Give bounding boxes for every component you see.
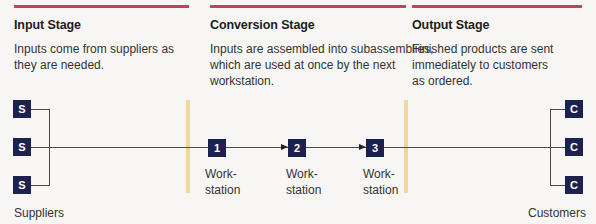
description-line: which are used at once by the next bbox=[210, 57, 433, 73]
description-line: they are needed. bbox=[14, 57, 174, 73]
conversion-stage-header-bar bbox=[210, 5, 406, 8]
output-stage-description: Finished products are sent immediately t… bbox=[412, 41, 553, 89]
description-line: Inputs come from suppliers as bbox=[14, 41, 174, 57]
supplier-node: S bbox=[13, 176, 31, 194]
suppliers-label: Suppliers bbox=[14, 206, 64, 220]
customers-label: Customers bbox=[528, 206, 586, 220]
workstation-label-line: Work- bbox=[286, 166, 321, 182]
customer-connector-bottom bbox=[550, 185, 565, 186]
workstation-label-2: Work- station bbox=[286, 166, 321, 198]
supplier-node: S bbox=[13, 100, 31, 118]
workstation-label-3: Work- station bbox=[363, 166, 398, 198]
description-line: Finished products are sent bbox=[412, 41, 553, 57]
customer-node: C bbox=[565, 176, 583, 194]
customer-node: C bbox=[565, 100, 583, 118]
customer-connector-top bbox=[550, 109, 565, 110]
conversion-stage-description: Inputs are assembled into subassemblies,… bbox=[210, 41, 433, 89]
description-line: as ordered. bbox=[412, 73, 553, 89]
workstation-label-line: station bbox=[286, 182, 321, 198]
description-line: workstation. bbox=[210, 73, 433, 89]
customer-node: C bbox=[565, 138, 583, 156]
description-line: immediately to customers bbox=[412, 57, 553, 73]
supplier-connector-top bbox=[31, 109, 49, 110]
conversion-stage-title: Conversion Stage bbox=[210, 18, 315, 32]
input-stage-header-bar bbox=[14, 5, 189, 8]
workstation-label-line: Work- bbox=[363, 166, 398, 182]
output-stage-header-bar bbox=[412, 5, 582, 8]
workstation-label-1: Work- station bbox=[205, 166, 240, 198]
workstation-label-line: Work- bbox=[205, 166, 240, 182]
workstation-label-line: station bbox=[363, 182, 398, 198]
workstation-node-3: 3 bbox=[366, 139, 384, 157]
workstation-node-2: 2 bbox=[288, 139, 306, 157]
description-line: Inputs are assembled into subassemblies, bbox=[210, 41, 433, 57]
workstation-label-line: station bbox=[205, 182, 240, 198]
input-stage-title: Input Stage bbox=[14, 18, 81, 32]
arrow-right-icon bbox=[281, 144, 288, 150]
supplier-connector-bottom bbox=[31, 185, 49, 186]
output-stage-title: Output Stage bbox=[412, 18, 489, 32]
arrow-right-icon bbox=[359, 144, 366, 150]
supplier-node: S bbox=[13, 138, 31, 156]
workstation-node-1: 1 bbox=[208, 139, 226, 157]
input-stage-description: Inputs come from suppliers as they are n… bbox=[14, 41, 174, 73]
customer-bracket-line bbox=[550, 109, 551, 186]
